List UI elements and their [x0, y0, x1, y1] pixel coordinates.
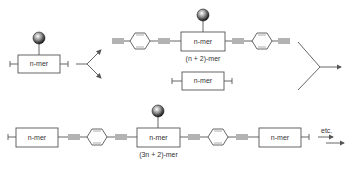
start-unit-label: n-mer	[18, 60, 60, 67]
product-top-caption: (n + 2)-mer	[181, 55, 225, 62]
row2-left-label: n-mer	[16, 134, 58, 141]
branch-arrow-1	[76, 50, 101, 78]
row2-center-label: n-mer	[137, 134, 180, 141]
reaction-scheme	[0, 0, 354, 171]
linker-right	[225, 33, 290, 49]
substituent-ball-icon	[197, 9, 209, 21]
substituent-ball-icon	[33, 32, 45, 44]
product-top-label: n-mer	[181, 38, 225, 45]
row2-center-caption: (3n + 2)-mer	[132, 151, 185, 158]
continuation-arrows	[318, 137, 344, 143]
product-bottom-label: n-mer	[182, 77, 224, 84]
linker-left	[112, 33, 181, 49]
continuation-label: etc.	[321, 127, 332, 134]
merge-arrow	[298, 42, 341, 90]
row2-right-label: n-mer	[259, 134, 301, 141]
substituent-ball-icon	[152, 105, 164, 117]
start-unit	[10, 43, 68, 73]
